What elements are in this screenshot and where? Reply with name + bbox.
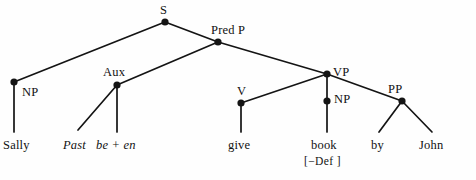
terminal-been: be + en xyxy=(96,139,136,152)
tree-edge-PredP-to-Aux xyxy=(117,42,218,85)
tree-node-aux xyxy=(113,81,120,88)
tree-edge-PredP-to-VP xyxy=(218,42,327,74)
node-label-np2: NP xyxy=(334,93,350,106)
terminal-john: John xyxy=(419,139,443,152)
terminal-sally: Sally xyxy=(3,139,30,152)
tree-node-np2 xyxy=(323,97,330,104)
tree-node-vp xyxy=(323,70,330,77)
syntax-tree-diagram: SPred PNPAuxVPVNPPPSallyPastbe + engiveb… xyxy=(0,0,476,180)
tree-node-s xyxy=(161,18,168,25)
edge-group xyxy=(14,22,432,132)
feature-book-def: [−Def ] xyxy=(304,156,341,168)
tree-node-np1 xyxy=(10,78,17,85)
tree-edge-PP-to-by xyxy=(379,101,402,132)
tree-edge-VP-to-V xyxy=(241,74,327,103)
tree-node-predp xyxy=(214,38,221,45)
tree-node-v xyxy=(237,99,244,106)
tree-edge-PP-to-john xyxy=(402,101,432,132)
tree-node-pp xyxy=(398,97,405,104)
tree-edge-S-to-NP1 xyxy=(14,22,165,82)
node-label-predp: Pred P xyxy=(211,24,245,37)
tree-edge-Aux-to-past xyxy=(78,85,117,130)
terminal-by: by xyxy=(371,139,384,152)
node-label-v: V xyxy=(237,85,246,98)
node-label-s: S xyxy=(160,4,167,17)
terminal-book: book xyxy=(311,139,337,152)
terminal-past: Past xyxy=(63,139,86,152)
terminal-give: give xyxy=(228,139,250,152)
node-label-pp: PP xyxy=(388,83,402,96)
node-label-np1: NP xyxy=(22,86,38,99)
node-label-aux: Aux xyxy=(103,66,125,79)
node-label-vp: VP xyxy=(333,66,349,79)
